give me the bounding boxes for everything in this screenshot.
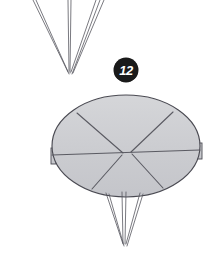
top-cone-line-1 [36,0,69,74]
origami-step-illustration [0,0,222,256]
fanned-disc-shape [51,95,202,197]
diagram-canvas: 12 [0,0,222,256]
top-cone-line-0 [33,0,68,72]
top-cone-line-5 [72,0,100,74]
bottom-cone-line-3 [125,192,126,244]
step-badge-circle: 12 [114,58,138,82]
bottom-cone-line-2 [122,192,123,243]
top-cone-line-3 [70,0,71,73]
top-cone-line-4 [71,0,96,72]
bottom-cone-fold-lines [106,192,143,246]
bottom-cone-shape [106,192,143,246]
top-cone-shape [33,0,104,74]
top-cone-fold-lines [33,0,104,74]
step-number-badge: 12 [114,58,138,82]
disc-outline [52,95,200,197]
bottom-cone-line-0 [106,193,123,244]
bottom-cone-line-4 [126,193,140,244]
bottom-cone-line-1 [109,194,124,246]
top-cone-line-6 [73,0,104,73]
step-badge-label: 12 [119,63,132,76]
top-cone-line-2 [68,0,69,71]
bottom-cone-line-5 [127,194,143,246]
